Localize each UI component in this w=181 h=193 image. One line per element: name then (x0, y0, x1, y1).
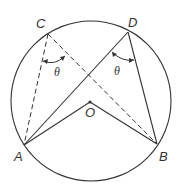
arrowhead-icon (60, 56, 65, 61)
segment-CA (24, 34, 48, 145)
arrowhead-icon (43, 59, 48, 64)
label-C: C (36, 16, 46, 31)
segment-DB (128, 32, 157, 144)
segment-OB (90, 102, 157, 144)
segment-DA (24, 32, 128, 145)
label-D: D (128, 15, 137, 30)
label-B: B (159, 149, 168, 164)
label-O: O (85, 105, 95, 120)
segment-CB (48, 34, 157, 144)
circle-theorem-diagram: C D A B O θ θ (0, 0, 181, 193)
angle-label-C: θ (54, 65, 60, 79)
angle-label-D: θ (114, 64, 120, 78)
label-A: A (13, 149, 23, 164)
center-point-dot (88, 100, 91, 103)
